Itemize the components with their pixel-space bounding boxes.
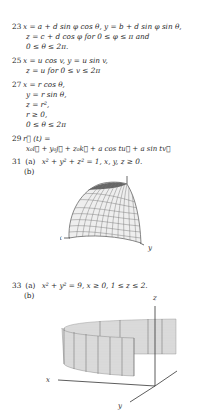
part-label: (a) — [25, 157, 35, 166]
answer-25-line-1: 25x = u cos v, y = u sin v, — [12, 56, 108, 65]
part-label: (b) — [24, 167, 34, 176]
answer-text: r ≥ 0, — [26, 110, 47, 119]
answer-33-part-b: (b) — [24, 291, 34, 300]
answer-number: 31 — [12, 157, 23, 166]
answer-text: z = r², — [26, 100, 49, 109]
answer-number: 25 — [12, 56, 23, 65]
answer-text: x = u cos v, y = u sin v, — [23, 56, 108, 65]
answer-25-line-2: z = u for 0 ≤ v ≤ 2π — [26, 66, 100, 75]
z-axis-label: z — [152, 296, 157, 302]
answer-27-line-3: z = r², — [26, 100, 49, 109]
answer-text: x = a + d sin φ cos θ, y = b + d sin φ s… — [23, 22, 182, 31]
answer-29-line-1: 29r⃗ (t) = — [12, 134, 50, 143]
answer-23-line-2: z = c + d cos φ for 0 ≤ φ ≤ π and — [26, 32, 149, 41]
answer-23-line-3: 0 ≤ θ ≤ 2π. — [26, 42, 68, 51]
answer-text: r⃗ (t) = — [23, 134, 50, 143]
answer-text: z = c + d cos φ for 0 ≤ φ ≤ π and — [26, 32, 149, 41]
answer-33-part-a: 33 (a) x² + y² = 9, x ≥ 0, 1 ≤ z ≤ 2. — [12, 281, 148, 290]
answer-text: 0 ≤ θ ≤ 2π — [26, 120, 66, 129]
answer-text: x² + y² = 9, x ≥ 0, 1 ≤ z ≤ 2. — [42, 281, 148, 290]
answer-text: x = r cos θ, — [23, 80, 65, 89]
answer-29-line-2: x₀i⃗ + y₀j⃗ + z₀k⃗ + a cos tu⃗ + a sin t… — [26, 145, 170, 154]
answer-27-line-1: 27x = r cos θ, — [12, 80, 65, 89]
answer-27-line-2: y = r sin θ, — [26, 90, 67, 99]
part-label: (a) — [25, 281, 35, 290]
half-cylinder-figure: z x y — [40, 296, 190, 415]
answer-number: 27 — [12, 80, 23, 89]
answer-31-part-a: 31 (a) x² + y² + z² = 1, x, y, z ≥ 0. — [12, 157, 142, 166]
answer-27-line-5: 0 ≤ θ ≤ 2π — [26, 120, 66, 129]
y-axis-label: y — [117, 402, 123, 410]
y-axis-label: y — [147, 244, 153, 252]
sphere-octant-figure: z x y — [60, 172, 165, 254]
answer-number: 33 — [12, 281, 23, 290]
answer-text: x² + y² + z² = 1, x, y, z ≥ 0. — [42, 157, 143, 166]
answer-text: y = r sin θ, — [26, 90, 67, 99]
answer-text: z = u for 0 ≤ v ≤ 2π — [26, 66, 100, 75]
x-axis-label: x — [46, 376, 50, 384]
part-label: (b) — [24, 291, 34, 300]
answer-27-line-4: r ≥ 0, — [26, 110, 47, 119]
answer-number: 29 — [12, 134, 23, 143]
x-axis-label: x — [60, 234, 62, 242]
answer-31-part-b: (b) — [24, 167, 34, 176]
answer-23-line-1: 23x = a + d sin φ cos θ, y = b + d sin φ… — [12, 22, 182, 31]
answer-number: 23 — [12, 22, 23, 31]
z-axis-label: z — [123, 172, 128, 173]
answer-text: x₀i⃗ + y₀j⃗ + z₀k⃗ + a cos tu⃗ + a sin t… — [26, 145, 170, 153]
answer-text: 0 ≤ θ ≤ 2π. — [26, 42, 68, 51]
